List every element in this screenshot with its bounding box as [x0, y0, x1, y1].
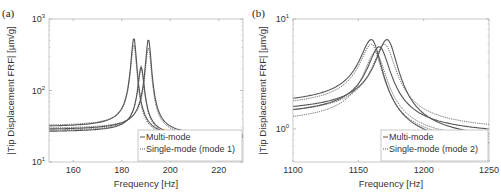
x-tick-label: 200	[163, 165, 178, 175]
x-tick-label: 1100	[283, 165, 302, 175]
legend-entry: Single-mode (mode 2)	[389, 144, 478, 154]
panel-label: (b)	[252, 7, 265, 20]
x-axis-label: Frequency [Hz]	[114, 178, 178, 189]
y-tick-label: 101	[32, 156, 46, 167]
legend-entry: Multi-mode	[146, 132, 191, 142]
series-group	[293, 40, 489, 143]
panel-label: (a)	[2, 7, 15, 20]
y-tick-label: 103	[32, 13, 46, 24]
legend: Multi-modeSingle-mode (mode 1)	[138, 130, 242, 161]
series-line	[49, 67, 243, 136]
series-line	[293, 40, 489, 134]
x-tick-label: 1150	[349, 165, 368, 175]
legend: Multi-modeSingle-mode (mode 2)	[381, 130, 488, 161]
series-line	[49, 48, 243, 136]
y-tick-label: 102	[32, 85, 46, 96]
y-axis-label: |Tip Displacement FRF| [µm/g]	[257, 26, 268, 154]
y-tick-label: 101	[276, 13, 290, 24]
series-line	[293, 44, 489, 124]
x-tick-label: 1250	[479, 165, 499, 175]
x-axis-label: Frequency [Hz]	[359, 178, 423, 189]
x-tick-label: 1200	[414, 165, 434, 175]
series-group	[49, 39, 243, 139]
x-tick-label: 160	[66, 165, 81, 175]
figure: (a)160180200220101102103Frequency [Hz]|T…	[0, 0, 501, 196]
legend-entry: Multi-mode	[389, 132, 434, 142]
x-tick-label: 220	[211, 165, 226, 175]
legend-entry: Single-mode (mode 1)	[146, 144, 235, 154]
series-line	[293, 47, 489, 129]
chart-panel-a: (a)160180200220101102103Frequency [Hz]|T…	[2, 7, 243, 189]
chart-panel-b: (b)1100115012001250100101Frequency [Hz]|…	[252, 7, 499, 189]
x-tick-label: 180	[114, 165, 129, 175]
y-axis-label: |Tip Displacement FRF| [µm/g]	[5, 26, 16, 154]
y-tick-label: 100	[276, 123, 290, 134]
series-line	[49, 40, 243, 135]
